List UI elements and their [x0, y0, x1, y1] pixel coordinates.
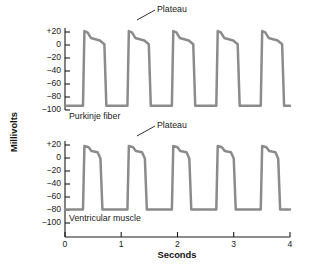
top-ytick-label-3: −40: [46, 65, 61, 75]
top-y-axis-tick-labels: +20 0 −20 −40 −60 −80 −100: [42, 26, 62, 114]
action-potential-figure: Millivolts +20 0 −20 −40 −60: [0, 0, 309, 272]
bottom-ytick-label-2: −20: [46, 165, 61, 175]
plateau-label-top: Plateau: [157, 4, 187, 14]
trace-label-ventricular-muscle: Ventricular muscle: [69, 213, 141, 223]
bottom-ytick-label-4: −60: [46, 191, 61, 201]
bottom-ytick-label-6: −100: [42, 217, 62, 227]
panel-purkinje-fiber: +20 0 −20 −40 −60 −80 −100 Purkinje fibe…: [42, 4, 290, 121]
top-ytick-label-1: 0: [56, 39, 61, 49]
x-axis-tick-labels: 0 1 2 3 4: [63, 239, 293, 249]
top-ytick-label-5: −80: [46, 91, 61, 101]
chart-svg: Millivolts +20 0 −20 −40 −60: [0, 0, 309, 272]
bottom-ytick-label-5: −80: [46, 204, 61, 214]
x-axis-ticks: [65, 232, 290, 237]
top-ytick-label-4: −60: [46, 78, 61, 88]
top-ytick-label-6: −100: [42, 104, 62, 114]
bottom-ytick-label-1: 0: [56, 152, 61, 162]
plateau-leader-line-top: [137, 10, 155, 20]
trace-purkinje-fiber: [65, 31, 290, 106]
xtick-label-4: 4: [288, 239, 293, 249]
trace-label-purkinje-fiber: Purkinje fiber: [69, 111, 120, 121]
xtick-label-0: 0: [63, 239, 68, 249]
xtick-label-1: 1: [119, 239, 124, 249]
top-y-axis-ticks: [65, 32, 70, 110]
plateau-label-bottom: Plateau: [157, 120, 187, 130]
panel-ventricular-muscle: +20 0 −20 −40 −60 −80 −100 Ventricular m…: [42, 120, 290, 237]
plateau-leader-line-bottom: [137, 126, 155, 136]
xtick-label-2: 2: [175, 239, 180, 249]
x-axis-title: Seconds: [157, 249, 196, 260]
bottom-ytick-label-3: −40: [46, 178, 61, 188]
y-axis-title: Millivolts: [8, 112, 19, 152]
bottom-y-axis-ticks: [65, 145, 70, 223]
annotation-plateau-bottom: Plateau: [137, 120, 187, 136]
bottom-ytick-label-0: +20: [46, 139, 61, 149]
annotation-plateau-top: Plateau: [137, 4, 187, 20]
trace-ventricular-muscle: [65, 146, 290, 209]
top-ytick-label-2: −20: [46, 52, 61, 62]
top-ytick-label-0: +20: [46, 26, 61, 36]
bottom-y-axis-tick-labels: +20 0 −20 −40 −60 −80 −100: [42, 139, 62, 227]
xtick-label-3: 3: [231, 239, 236, 249]
x-axis: 0 1 2 3 4 Seconds: [63, 232, 293, 260]
